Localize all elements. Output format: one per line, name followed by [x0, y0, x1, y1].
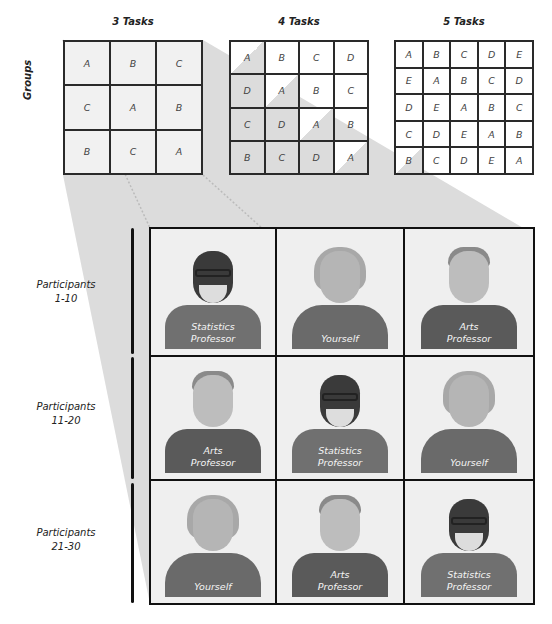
glasses-icon — [195, 269, 231, 277]
role-label: Arts Professor — [292, 569, 388, 593]
head — [193, 375, 233, 427]
latin-square-cell: C — [265, 141, 300, 174]
latin-square-4: ABCDDABCCDABBCDA — [229, 40, 369, 175]
role-label: Statistics Professor — [165, 321, 261, 345]
latin-square-cell: D — [450, 147, 478, 174]
participant-cell-yourself: Yourself — [149, 479, 277, 605]
arts-professor-portrait: Arts Professor — [421, 245, 517, 349]
statistics-professor-portrait: Statistics Professor — [421, 493, 517, 597]
participant-cell-arts-professor: Arts Professor — [403, 227, 535, 357]
latin-square-cell: D — [265, 108, 300, 141]
latin-square-cell: B — [230, 141, 265, 174]
latin-square-cell: A — [505, 147, 533, 174]
latin-square-cell: C — [505, 94, 533, 121]
latin-square-cell: B — [450, 68, 478, 95]
latin-square-cell: B — [395, 147, 423, 174]
arts-professor-portrait: Arts Professor — [292, 493, 388, 597]
role-label-line2: Professor — [165, 457, 261, 469]
row-label-line2: 11-20 — [0, 414, 132, 428]
latin-square-cell: A — [395, 41, 423, 68]
latin-square-cell: C — [334, 74, 369, 107]
role-label-line2: Professor — [292, 457, 388, 469]
row-label-participants-11-20: Participants 11-20 — [0, 400, 132, 428]
latin-square-cell: C — [110, 130, 156, 174]
arts-professor-portrait: Arts Professor — [165, 369, 261, 473]
latin-square-cell: D — [505, 68, 533, 95]
row-bracket — [131, 483, 134, 603]
grid-title-3-tasks: 3 Tasks — [63, 16, 203, 27]
latin-square-cell: A — [299, 108, 334, 141]
latin-square-cell: B — [299, 74, 334, 107]
latin-square-cell: B — [478, 94, 506, 121]
latin-square-cell: B — [110, 41, 156, 85]
role-label: Arts Professor — [421, 321, 517, 345]
head — [449, 251, 489, 303]
role-label-line2: Yourself — [421, 457, 517, 469]
role-label-line1: Statistics — [165, 321, 261, 333]
latin-square-cell: A — [156, 130, 202, 174]
latin-square-cell: E — [395, 68, 423, 95]
row-bracket — [131, 357, 134, 479]
latin-square-cell: A — [230, 41, 265, 74]
participant-cell-arts-professor: Arts Professor — [275, 479, 405, 605]
latin-square-cell: D — [478, 41, 506, 68]
latin-square-cell: A — [478, 121, 506, 148]
participant-cell-statistics-professor: Statistics Professor — [275, 355, 405, 481]
latin-square-cell: B — [265, 41, 300, 74]
groups-axis-label: Groups — [22, 60, 33, 100]
latin-square-cell: E — [505, 41, 533, 68]
yourself-portrait: Yourself — [421, 369, 517, 473]
role-label-line1: Arts — [421, 321, 517, 333]
row-bracket — [131, 228, 134, 354]
row-label-participants-21-30: Participants 21-30 — [0, 526, 132, 554]
latin-square-cell: B — [64, 130, 110, 174]
role-label-line1: Statistics — [292, 445, 388, 457]
head — [193, 499, 233, 551]
latin-square-cell: B — [156, 85, 202, 129]
role-label-line2: Professor — [421, 333, 517, 345]
role-label: Yourself — [165, 581, 261, 593]
glasses-icon — [451, 517, 487, 525]
role-label: Yourself — [292, 333, 388, 345]
role-label-line2: Yourself — [165, 581, 261, 593]
participant-assignment-grid: Statistics Professor Yourself Arts Profe… — [150, 228, 534, 604]
latin-square-cell: C — [478, 68, 506, 95]
grid-title-4-tasks: 4 Tasks — [229, 16, 369, 27]
role-label-line1: Arts — [165, 445, 261, 457]
statistics-professor-portrait: Statistics Professor — [292, 369, 388, 473]
participant-cell-yourself: Yourself — [403, 355, 535, 481]
latin-square-cell: A — [423, 68, 451, 95]
head — [320, 499, 360, 551]
latin-square-cell: A — [64, 41, 110, 85]
latin-square-cell: C — [395, 121, 423, 148]
yourself-portrait: Yourself — [292, 245, 388, 349]
latin-square-cell: D — [395, 94, 423, 121]
latin-square-5: ABCDEEABCDDEABCCDEABBCDEA — [394, 40, 534, 175]
role-label-line2: Yourself — [292, 333, 388, 345]
participant-cell-yourself: Yourself — [275, 227, 405, 357]
head — [320, 251, 360, 303]
row-label-line2: 1-10 — [0, 292, 132, 306]
latin-square-cell: C — [64, 85, 110, 129]
role-label: Statistics Professor — [292, 445, 388, 469]
glasses-icon — [322, 393, 358, 401]
role-label: Statistics Professor — [421, 569, 517, 593]
yourself-portrait: Yourself — [165, 493, 261, 597]
role-label: Yourself — [421, 457, 517, 469]
role-label: Arts Professor — [165, 445, 261, 469]
latin-square-cell: C — [156, 41, 202, 85]
head — [449, 375, 489, 427]
participant-cell-statistics-professor: Statistics Professor — [149, 227, 277, 357]
latin-square-3: ABCCABBCA — [63, 40, 203, 175]
latin-square-cell: C — [423, 147, 451, 174]
latin-square-cell: C — [230, 108, 265, 141]
role-label-line2: Professor — [292, 581, 388, 593]
latin-square-cell: D — [334, 41, 369, 74]
role-label-line1: Statistics — [421, 569, 517, 581]
latin-square-cell: C — [450, 41, 478, 68]
latin-square-cell: A — [450, 94, 478, 121]
row-label-line1: Participants — [0, 400, 132, 414]
latin-square-cell: E — [478, 147, 506, 174]
latin-square-cell: B — [423, 41, 451, 68]
latin-square-cell: A — [265, 74, 300, 107]
